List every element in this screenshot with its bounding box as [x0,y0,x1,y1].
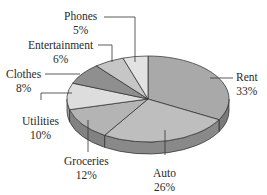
label-clothes-name: Clothes [6,67,41,81]
label-utilities-pct: 10% [22,128,59,142]
label-rent: Rent 33% [236,70,258,98]
label-rent-pct: 33% [236,84,258,98]
label-phones-pct: 5% [64,23,97,37]
label-entertainment-pct: 6% [28,52,93,66]
label-groceries: Groceries 12% [64,154,109,182]
pie-slices [67,56,229,142]
label-clothes: Clothes 8% [6,67,41,95]
label-auto-pct: 26% [153,180,176,194]
leader-entertainment [98,45,112,62]
label-phones-name: Phones [64,9,97,23]
label-auto-name: Auto [153,166,176,180]
label-clothes-pct: 8% [6,81,41,95]
label-phones: Phones 5% [64,9,97,37]
pie-chart [0,0,267,195]
label-utilities-name: Utilities [22,114,59,128]
label-groceries-name: Groceries [64,154,109,168]
leader-phones [104,17,135,62]
label-entertainment-name: Entertainment [28,38,93,52]
label-utilities: Utilities 10% [22,114,59,142]
label-rent-name: Rent [236,70,258,84]
label-auto: Auto 26% [153,166,176,194]
label-entertainment: Entertainment 6% [28,38,93,66]
label-groceries-pct: 12% [64,168,109,182]
